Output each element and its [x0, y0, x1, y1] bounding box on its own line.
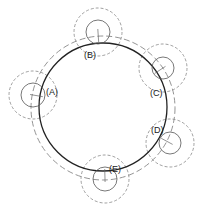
- outer-dashed-ring: [31, 36, 175, 180]
- node-radial-line: [161, 138, 172, 144]
- node-label: (D): [151, 125, 164, 135]
- main-circle: [39, 43, 167, 171]
- outer-dashed-circles: [9, 8, 194, 203]
- inner-circles: [21, 20, 181, 191]
- node-radial-line: [98, 29, 99, 42]
- diagram-container: (A)(B)(C)(D)(E): [0, 0, 197, 217]
- node-label: (B): [84, 50, 96, 60]
- circle-diagram: (A)(B)(C)(D)(E): [0, 0, 197, 217]
- node-radial-line: [155, 66, 166, 73]
- node-label: (E): [109, 164, 121, 174]
- node-label: (C): [150, 88, 163, 98]
- node-label: (A): [46, 87, 58, 97]
